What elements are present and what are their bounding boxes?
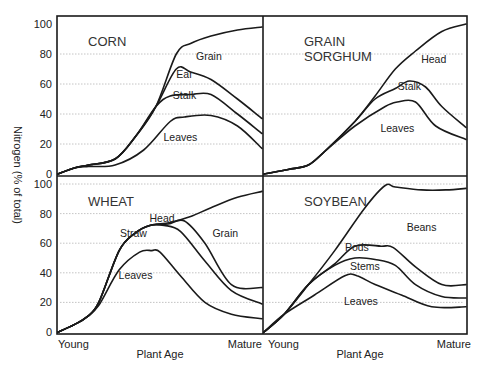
corn-ear-curve xyxy=(58,67,262,174)
soybean-stems-label: Stems xyxy=(350,260,380,272)
grain-sorghum-head-label: Head xyxy=(421,53,446,65)
corn-panel-title: CORN xyxy=(88,34,126,49)
grain-sorghum-panel-title: GRAIN xyxy=(304,34,345,49)
grain-sorghum-leaves-curve xyxy=(264,100,466,174)
corn-stalk-label: Stalk xyxy=(173,89,197,101)
x-axis-label-right: Plant Age xyxy=(336,348,383,360)
grain-sorghum-stalk-curve xyxy=(264,81,466,174)
x-tick-young-right: Young xyxy=(268,338,299,350)
y-tick-label: 40 xyxy=(40,267,52,279)
chart-canvas: GrainEarStalkLeavesHeadStalkLeavesStrawH… xyxy=(0,0,493,372)
region-labels: GrainEarStalkLeavesHeadStalkLeavesStrawH… xyxy=(119,50,447,307)
corn-leaves-label: Leaves xyxy=(163,131,197,143)
grain-sorghum-panel-title: SORGHUM xyxy=(304,49,372,64)
y-tick-label: 20 xyxy=(40,296,52,308)
y-tick-label: 80 xyxy=(40,208,52,220)
grain-sorghum-stalk-label: Stalk xyxy=(398,80,422,92)
wheat-straw-label: Straw xyxy=(120,227,147,239)
corn-ear-label: Ear xyxy=(176,68,193,80)
y-tick-label: 60 xyxy=(40,237,52,249)
soybean-pods-label: Pods xyxy=(345,241,369,253)
x-tick-mature-right: Mature xyxy=(437,338,471,350)
soybean-panel-title: SOYBEAN xyxy=(304,194,367,209)
soybean-beans-label: Beans xyxy=(407,221,437,233)
outer-frame xyxy=(57,16,467,334)
y-tick-label: 60 xyxy=(40,78,52,90)
wheat-panel-title: WHEAT xyxy=(88,194,134,209)
x-axis-label-left: Plant Age xyxy=(136,348,183,360)
grain-sorghum-leaves-label: Leaves xyxy=(380,122,414,134)
wheat-grain-label: Grain xyxy=(212,227,238,239)
y-tick-label: 40 xyxy=(40,108,52,120)
y-axis-ticks: 020406080100020406080100 xyxy=(34,18,52,338)
y-tick-label: 80 xyxy=(40,48,52,60)
y-tick-label: 20 xyxy=(40,138,52,150)
panel-frames xyxy=(57,16,467,334)
wheat-leaves-label: Leaves xyxy=(119,269,153,281)
x-tick-young-left: Young xyxy=(58,338,89,350)
data-curves xyxy=(58,24,466,332)
y-axis-label: Nitrogen (% of total) xyxy=(12,126,24,224)
corn-grain-label: Grain xyxy=(196,50,222,62)
soybean-leaves-label: Leaves xyxy=(344,295,378,307)
y-tick-label: 0 xyxy=(46,326,52,338)
nitrogen-partition-chart: GrainEarStalkLeavesHeadStalkLeavesStrawH… xyxy=(0,0,493,372)
x-tick-mature-left: Mature xyxy=(228,338,262,350)
y-tick-label: 100 xyxy=(34,178,52,190)
y-tick-label: 100 xyxy=(34,18,52,30)
wheat-head-label: Head xyxy=(149,212,174,224)
